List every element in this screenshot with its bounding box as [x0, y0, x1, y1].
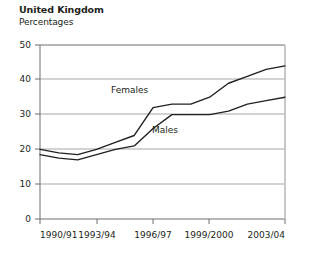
y-tick-label: 30	[20, 109, 32, 119]
x-tick-label: 1990/91	[40, 230, 77, 240]
x-axis-ticks	[40, 219, 285, 224]
y-tick-labels: 50 40 30 20 10 0	[20, 40, 32, 224]
line-chart: 50 40 30 20 10 0 1990/91 1993/94 1996/97…	[0, 0, 309, 255]
chart-container: United Kingdom Percentages	[0, 0, 309, 255]
x-tick-label: 2003/04	[248, 230, 286, 240]
y-tick-label: 40	[20, 74, 32, 84]
gridlines	[40, 45, 285, 184]
x-tick-label: 1996/97	[134, 230, 171, 240]
x-tick-label: 1993/94	[78, 230, 116, 240]
y-tick-label: 20	[20, 144, 32, 154]
series-annotation-females: Females	[111, 85, 149, 95]
y-tick-label: 0	[25, 214, 31, 224]
y-axis-ticks	[35, 45, 40, 219]
x-tick-label: 1999/2000	[185, 230, 234, 240]
y-tick-label: 10	[20, 179, 32, 189]
y-tick-label: 50	[20, 40, 32, 50]
series-annotation-males: Males	[152, 125, 178, 135]
x-tick-labels: 1990/91 1993/94 1996/97 1999/2000 2003/0…	[40, 230, 285, 240]
